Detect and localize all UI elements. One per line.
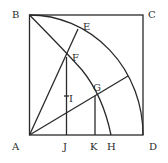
line-a-arc [30, 76, 129, 135]
line-ae [30, 29, 79, 135]
label-j: J [62, 141, 67, 152]
label-k: K [90, 141, 98, 152]
quadratrix-curve-bh [30, 15, 112, 135]
geometry-diagram: B C E F G I A J K H D [0, 0, 168, 163]
label-d: D [149, 141, 157, 152]
label-b: B [12, 9, 19, 20]
label-c: C [148, 9, 156, 20]
label-h: H [107, 141, 116, 152]
label-g: G [93, 82, 101, 93]
label-f: F [72, 52, 79, 63]
label-e: E [83, 21, 90, 32]
label-i: I [69, 93, 73, 104]
label-a: A [11, 141, 20, 152]
